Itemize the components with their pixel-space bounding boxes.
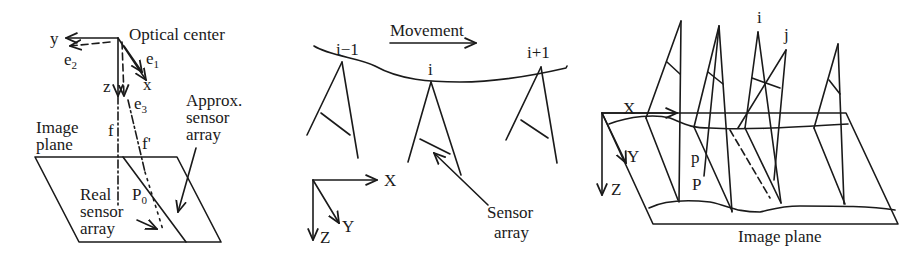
optical-center-label: Optical center [129,25,225,44]
real-pointer-arrow [137,220,157,229]
p-big-label: P [692,175,701,194]
movement-label: Movement [390,21,464,40]
e1-axis-arrow [124,46,142,72]
x-label: X [384,171,396,190]
sensor-label-2: array [494,223,529,242]
approx-pointer-arrow [178,148,196,212]
image-plane [35,157,221,242]
f-label: f [108,121,114,140]
panel-a-camera-geometry: Optical center y e2 e1 x z e3 f f' Image… [35,25,242,242]
e2-label: e2 [64,50,77,71]
z-label: Z [611,180,621,199]
camera-1 [646,21,681,202]
y-label: y [50,29,59,48]
z-label: z [103,77,111,96]
camera-i [408,82,461,175]
camera-5 [814,44,845,204]
panel-b-pushbroom-movement: Movement i−1 i i+1 X Z Y Sensor array [307,21,567,247]
p-small-label: p [691,148,700,167]
figure-canvas: Optical center y e2 e1 x z e3 f f' Image… [0,0,924,264]
e3-label: e3 [134,94,148,115]
i-label: i [428,60,433,79]
camera-i-minus-1 [307,62,358,158]
real-sensor-dotted [145,172,163,230]
upper-profile-curve [609,116,848,129]
y-label: Y [342,217,354,236]
y-axis-arrow [313,180,339,223]
x-label: X [623,99,635,118]
camera-i-plus-1 [506,67,557,163]
e3-axis-arrow [122,42,124,96]
image-plane [602,113,898,224]
i-plus-1-label: i+1 [527,43,550,62]
e2-axis-arrow [70,42,110,46]
i-minus-1-label: i−1 [336,40,359,59]
image-plane-label: Image plane [738,227,822,246]
y-label: Y [627,147,639,166]
real-sensor-label-3: array [80,219,115,238]
sensor-array-pointer [434,153,488,205]
panel-c-multi-view: X Y Z p P i j Image plane [602,8,898,246]
camera-i [745,32,781,203]
sensor-label-1: Sensor [487,203,534,222]
i-label: i [757,8,762,27]
x-label: x [143,75,152,94]
approx-label-3: array [186,125,221,144]
lower-profile-curve [649,201,895,212]
f-prime-label: f' [142,134,151,153]
z-label: Z [320,228,330,247]
e1-label: e1 [146,49,159,70]
image-plane-label-2: plane [36,135,73,154]
j-label: j [783,25,789,44]
